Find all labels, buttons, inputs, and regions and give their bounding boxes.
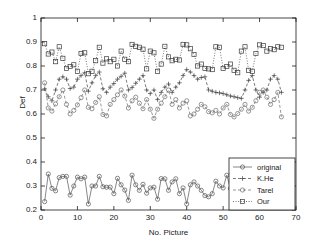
y-tick-label: 0.4 <box>11 157 37 166</box>
series-our <box>43 42 284 76</box>
y-tick-label: 0.5 <box>11 133 37 142</box>
x-tick-label: 60 <box>249 213 271 222</box>
y-tick-label: 0.8 <box>11 61 37 70</box>
chart-figure: originalK.HeTarelOur Def No. Picture 10.… <box>0 0 315 246</box>
legend-box: originalK.HeTarelOur <box>229 158 295 210</box>
x-tick-label: 50 <box>212 213 234 222</box>
x-tick-label: 10 <box>66 213 88 222</box>
legend-label: Tarel <box>257 186 274 195</box>
x-axis-label: No. Picture <box>41 228 296 237</box>
x-tick-label: 70 <box>285 213 307 222</box>
y-tick-label: 0.9 <box>11 37 37 46</box>
y-tick-label: 0.3 <box>11 181 37 190</box>
legend-label: Our <box>257 197 270 206</box>
legend-label: K.He <box>257 174 274 183</box>
y-tick-label: 0.6 <box>11 109 37 118</box>
y-tick-label: 0.7 <box>11 85 37 94</box>
x-tick-label: 40 <box>176 213 198 222</box>
x-tick-label: 30 <box>139 213 161 222</box>
x-tick-label: 20 <box>103 213 125 222</box>
x-tick-label: 0 <box>30 213 52 222</box>
legend-label: original <box>257 163 282 172</box>
y-tick-label: 1 <box>11 13 37 22</box>
plot-canvas: originalK.HeTarelOur <box>0 0 315 246</box>
series-tarel <box>43 81 284 121</box>
